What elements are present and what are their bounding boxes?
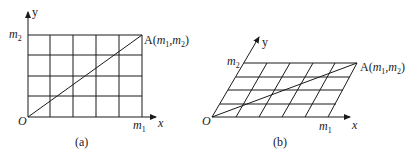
panel-b-point-A-label: A(m1,m2) <box>360 60 405 76</box>
panel-a-y-axis-label: y <box>32 5 38 19</box>
panel-b-y-axis-label: y <box>262 35 268 49</box>
panel-b-m1-label: m1 <box>319 119 332 135</box>
panel-b-origin-label: O <box>202 114 211 128</box>
panel-a-point-A-label: A(m1,m2) <box>144 33 189 49</box>
panel-a-m1-label: m1 <box>133 118 146 134</box>
panel-b <box>212 37 357 117</box>
panel-a-caption: (a) <box>75 135 88 149</box>
panel-a <box>28 12 156 117</box>
panel-b-x-axis-label: x <box>351 118 358 132</box>
panel-b-m2-label: m2 <box>227 54 240 70</box>
panel-a-x-axis-label: x <box>157 116 164 130</box>
diagram-canvas: y x O m2 m1 A(m1,m2) (a) y x O m2 <box>0 0 410 158</box>
panel-b-caption: (b) <box>273 135 287 149</box>
panel-a-m2-label: m2 <box>9 27 22 43</box>
panel-a-labels: y x O m2 m1 A(m1,m2) (a) <box>9 5 189 149</box>
panel-b-labels: y x O m2 m1 A(m1,m2) (b) <box>202 35 405 149</box>
panel-a-origin-label: O <box>18 114 27 128</box>
